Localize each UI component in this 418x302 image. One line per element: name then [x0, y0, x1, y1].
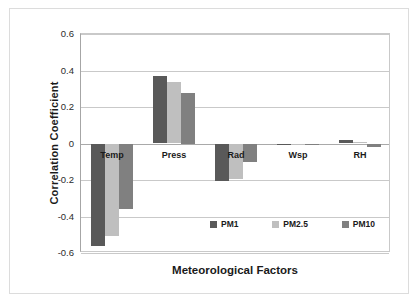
bar-press-pm1 — [153, 76, 167, 144]
legend-item-pm2-5[interactable]: PM2.5 — [272, 219, 308, 229]
bar-rh-pm10 — [367, 144, 381, 148]
legend-label: PM10 — [353, 219, 375, 229]
legend-label: PM2.5 — [283, 219, 308, 229]
legend-swatch-icon — [272, 221, 279, 228]
legend-item-pm10[interactable]: PM10 — [342, 219, 375, 229]
chart-figure: Correlation Coefficient 0.60.40.20-0.2-0… — [0, 0, 418, 302]
y-tick-label: -0.2 — [58, 174, 74, 185]
bar-group: Temp — [81, 34, 143, 251]
y-tick-label: -0.6 — [58, 247, 74, 258]
gridline — [81, 253, 389, 254]
y-tick-label: 0.6 — [61, 28, 74, 39]
bar-rh-pm2-5 — [353, 142, 367, 144]
y-axis-ticks: 0.60.40.20-0.2-0.4-0.6 — [0, 0, 80, 302]
bar-press-pm10 — [181, 93, 195, 143]
legend-item-pm1[interactable]: PM1 — [210, 219, 238, 229]
y-tick-label: 0.4 — [61, 64, 74, 75]
bar-press-pm2-5 — [167, 82, 181, 143]
category-label-rad: Rad — [205, 150, 267, 160]
bar-wsp-pm10 — [305, 144, 319, 145]
category-label-rh: RH — [329, 150, 391, 160]
y-tick-label: 0 — [69, 137, 74, 148]
category-label-temp: Temp — [81, 150, 143, 160]
bar-group: Press — [143, 34, 205, 251]
x-axis-title: Meteorological Factors — [80, 264, 390, 276]
legend-swatch-icon — [342, 221, 349, 228]
category-label-press: Press — [143, 150, 205, 160]
legend-label: PM1 — [221, 219, 238, 229]
chart-legend: PM1PM2.5PM10 — [210, 216, 375, 232]
category-label-wsp: Wsp — [267, 150, 329, 160]
y-tick-label: 0.2 — [61, 101, 74, 112]
bar-wsp-pm1 — [277, 144, 291, 145]
bar-wsp-pm2-5 — [291, 144, 305, 145]
y-tick-label: -0.4 — [58, 210, 74, 221]
legend-swatch-icon — [210, 221, 217, 228]
bar-rh-pm1 — [339, 140, 353, 144]
